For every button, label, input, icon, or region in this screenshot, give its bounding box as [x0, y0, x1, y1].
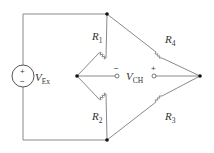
node-bottom — [105, 138, 109, 142]
label-r2: R2 — [91, 110, 103, 125]
source-label: VEx — [35, 71, 50, 86]
arm-r1 — [77, 14, 107, 76]
label-r4: R4 — [164, 33, 176, 48]
node-top — [105, 12, 109, 16]
terminal-minus — [115, 74, 119, 78]
node-left — [75, 74, 79, 78]
label-r3: R3 — [164, 110, 176, 125]
wheatstone-bridge-diagram: + − VEx − + VCH R1 R4 R2 R3 — [0, 0, 214, 153]
source-minus: − — [20, 77, 25, 86]
output-plus: + — [151, 64, 156, 73]
terminal-plus — [152, 74, 156, 78]
output-minus: − — [114, 64, 119, 73]
circuit-svg: + − VEx − + VCH R1 R4 R2 R3 — [0, 0, 214, 153]
source-plus: + — [20, 67, 25, 76]
node-right — [198, 74, 202, 78]
label-r1: R1 — [91, 30, 103, 45]
arm-r3 — [107, 76, 200, 140]
output-label: VCH — [126, 70, 144, 85]
arm-r2 — [77, 76, 107, 140]
